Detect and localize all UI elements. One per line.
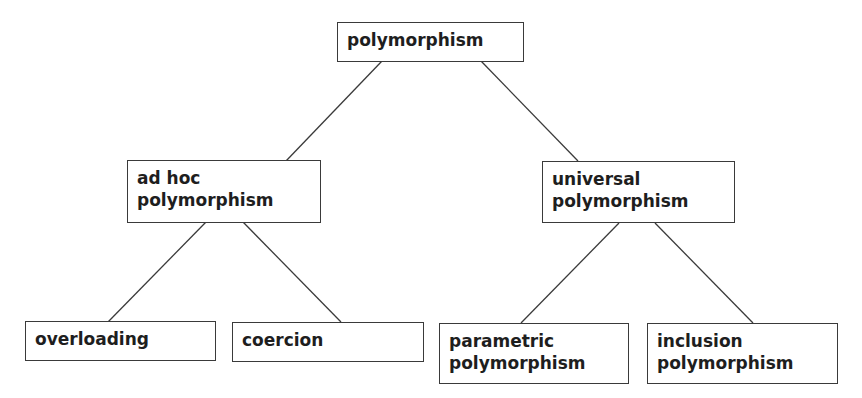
edge-root-adhoc — [286, 61, 382, 161]
edge-universal-parametric — [521, 223, 619, 323]
node-polymorphism: polymorphism — [337, 22, 524, 62]
edge-adhoc-coercion — [243, 222, 341, 322]
node-ad-hoc-polymorphism: ad hoc polymorphism — [127, 160, 321, 223]
edge-adhoc-overloading — [108, 222, 206, 322]
node-inclusion-polymorphism: inclusion polymorphism — [647, 323, 838, 384]
node-parametric-polymorphism: parametric polymorphism — [439, 323, 629, 384]
edge-root-universal — [481, 61, 578, 161]
edge-universal-inclusion — [655, 223, 753, 323]
node-overloading: overloading — [25, 321, 216, 361]
node-universal-polymorphism: universal polymorphism — [542, 161, 735, 223]
polymorphism-tree-diagram: polymorphism ad hoc polymorphism univers… — [0, 0, 862, 398]
node-coercion: coercion — [232, 322, 424, 362]
